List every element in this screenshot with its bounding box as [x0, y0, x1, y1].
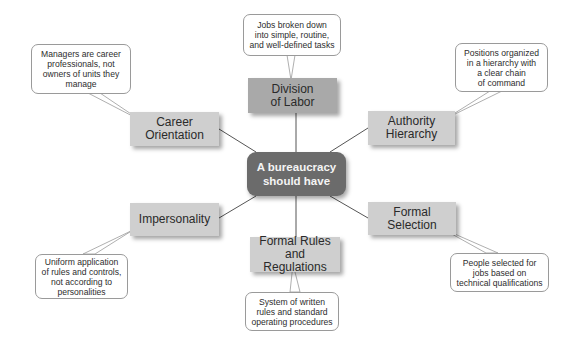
callout-authority-hierarchy: Positions organized in a hierarchy with …	[455, 43, 548, 92]
connector-authority	[330, 128, 368, 152]
node-formal-selection: Formal Selection	[368, 202, 456, 235]
callout-division-of-labor: Jobs broken down into simple, routine, a…	[243, 14, 341, 56]
node-formal-rules: Formal Rules and Regulations	[250, 237, 340, 272]
node-career-orientation: Career Orientation	[130, 112, 219, 146]
callout-tail-impersonality	[83, 230, 133, 254]
connector-career	[219, 129, 256, 152]
callout-tail-authority	[447, 91, 502, 118]
callout-formal-rules: System of written rules and standard ope…	[245, 292, 339, 331]
node-division-of-labor: Division of Labor	[248, 78, 337, 113]
callout-impersonality: Uniform application of rules and control…	[35, 254, 128, 299]
callout-tail-division	[287, 55, 295, 80]
connector-selection	[330, 196, 368, 218]
callout-career-orientation: Managers are career professionals, not o…	[31, 44, 131, 94]
callout-formal-selection: People selected for jobs based on techni…	[450, 253, 549, 292]
center-node: A bureaucracy should have	[247, 152, 346, 196]
bureaucracy-mind-map: Jobs broken down into simple, routine, a…	[0, 0, 576, 347]
node-authority-hierarchy: Authority Hierarchy	[368, 111, 455, 145]
node-impersonality: Impersonality	[130, 203, 219, 236]
connector-impersonality	[219, 196, 256, 218]
